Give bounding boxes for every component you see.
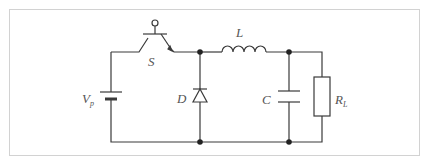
battery-icon — [100, 92, 122, 99]
junction-node — [197, 139, 203, 145]
wire-top-right — [266, 52, 322, 77]
wire-bottom — [111, 99, 322, 142]
label-vp: Vp — [82, 91, 94, 108]
label-rl: RL — [334, 92, 348, 109]
label-d: D — [176, 91, 187, 106]
circuit-diagram: Vp S D L C RL — [0, 0, 429, 167]
switch-transistor-icon — [143, 20, 200, 52]
resistor-icon — [314, 77, 330, 116]
wire-left-top — [111, 38, 148, 52]
junction-node — [286, 49, 292, 55]
label-l: L — [235, 25, 243, 40]
capacitor-icon — [278, 91, 300, 102]
label-c: C — [262, 92, 271, 107]
diode-icon — [193, 89, 207, 102]
inductor-icon — [222, 46, 266, 52]
label-s: S — [148, 54, 155, 69]
junction-node — [286, 139, 292, 145]
junction-node — [197, 49, 203, 55]
